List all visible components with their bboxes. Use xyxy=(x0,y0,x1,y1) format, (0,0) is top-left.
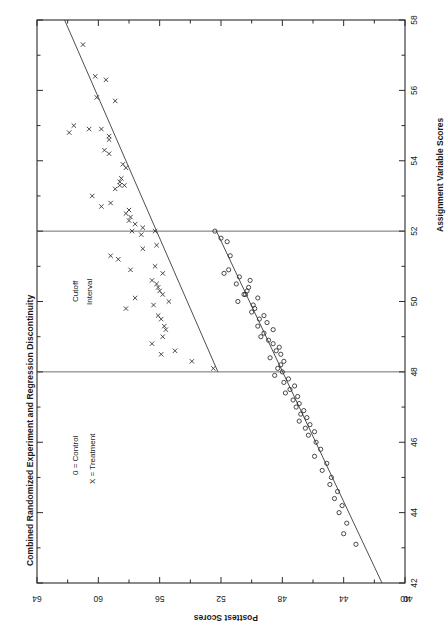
legend-entry-control: 0 = Control xyxy=(72,436,80,475)
cutoff-label-line1: Cutoff xyxy=(72,281,80,302)
right-tick-label: 58 xyxy=(409,15,419,25)
bottom-tick-label: 52 xyxy=(216,594,226,604)
bottom-tick-label: 48 xyxy=(277,594,287,604)
right-tick-label: 42 xyxy=(409,578,419,588)
bottom-tick-label: 64 xyxy=(32,594,42,604)
regression-discontinuity-chart: 4044485256606442444648505254565840 xyxy=(0,0,447,625)
axis-ticks: 4044485256606442444648505254565840 xyxy=(32,15,419,604)
right-tick-label: 50 xyxy=(409,297,419,307)
legend-entry-treatment: X = Treatment xyxy=(89,434,97,484)
bottom-axis-label: Posttest Scores xyxy=(194,614,258,623)
right-tick-label: 48 xyxy=(409,367,419,377)
bottom-tick-label: 44 xyxy=(339,594,349,604)
right-tick-label: 52 xyxy=(409,226,419,236)
corner-tick-label: 40 xyxy=(403,594,413,604)
regression-lines xyxy=(65,20,382,583)
control-points xyxy=(213,229,358,546)
bottom-tick-label: 56 xyxy=(155,594,165,604)
cutoff-label-line2: Interval xyxy=(86,279,94,305)
right-tick-label: 54 xyxy=(409,156,419,166)
right-tick-label: 44 xyxy=(409,508,419,518)
right-tick-label: 56 xyxy=(409,85,419,95)
treatment-points xyxy=(67,42,216,370)
page-title: Combined Randomized Experiment and Regre… xyxy=(26,295,35,566)
right-tick-label: 46 xyxy=(409,437,419,447)
bottom-tick-label: 60 xyxy=(93,594,103,604)
right-axis-label: Assignment Variable Scores xyxy=(436,118,445,232)
